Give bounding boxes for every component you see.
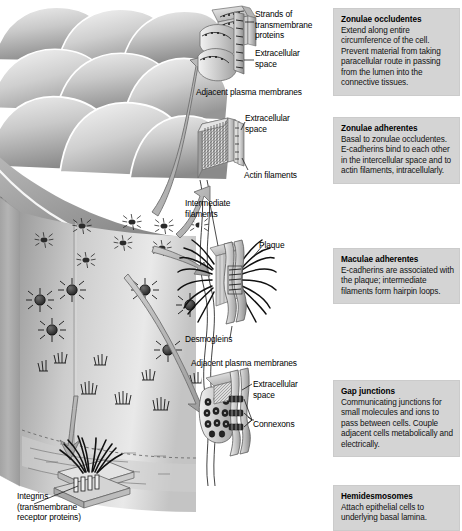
label-extracellular-space-tight-junction: Extracellular space xyxy=(255,48,300,69)
info-title-gap-junctions: Gap junctions xyxy=(341,387,454,398)
junction-info-panel: Zonulae occludentes Extend along entire … xyxy=(333,0,462,531)
info-title-zonulae-adherentes: Zonulae adherentes xyxy=(341,124,454,135)
info-body-maculae-adherentes: E-cadherins are associated with the plaq… xyxy=(341,266,454,298)
info-title-zonulae-occludentes: Zonulae occludentes xyxy=(341,15,454,26)
info-box-hemidesmosomes: Hemidesmosomes Attach epithelial cells t… xyxy=(333,485,460,531)
info-box-zonulae-occludentes: Zonulae occludentes Extend along entire … xyxy=(333,8,460,96)
label-actin-filaments: Actin filaments xyxy=(244,170,297,181)
label-adjacent-plasma-membranes-bottom: Adjacent plasma membranes xyxy=(191,358,297,369)
figure-root: Strands of transmembrane proteins Extrac… xyxy=(0,0,462,531)
label-plaque: Plaque xyxy=(259,240,284,251)
label-intermediate-filaments: Intermediate filaments xyxy=(185,198,230,219)
label-strands-of-transmembrane-proteins: Strands of transmembrane proteins xyxy=(255,9,312,41)
info-body-hemidesmosomes: Attach epithelial cells to underlying ba… xyxy=(341,503,454,524)
label-integrins: Integrins (transmembrane receptor protei… xyxy=(17,491,81,523)
label-extracellular-space-zonula-adherens: Extracellular space xyxy=(245,113,290,134)
info-body-gap-junctions: Communicating junctions for small molecu… xyxy=(341,398,454,451)
info-box-zonulae-adherentes: Zonulae adherentes Basal to zonulae occl… xyxy=(333,117,460,184)
info-box-gap-junctions: Gap junctions Communicating junctions fo… xyxy=(333,380,460,457)
label-desmogleins: Desmogleins xyxy=(185,334,232,345)
label-connexons: Connexons xyxy=(253,419,294,430)
cell-junction-illustration xyxy=(0,0,333,531)
info-title-hemidesmosomes: Hemidesmosomes xyxy=(341,492,454,503)
label-extracellular-space-gap-junction: Extracellular space xyxy=(253,379,298,400)
info-box-maculae-adherentes: Maculae adherentes E-cadherins are assoc… xyxy=(333,248,460,304)
label-adjacent-plasma-membranes-top: Adjacent plasma membranes xyxy=(196,87,302,98)
info-body-zonulae-adherentes: Basal to zonulae occludentes. E-cadherin… xyxy=(341,135,454,177)
info-title-maculae-adherentes: Maculae adherentes xyxy=(341,255,454,266)
apical-cell-surface xyxy=(0,7,229,180)
info-body-zonulae-occludentes: Extend along entire circumference of the… xyxy=(341,26,454,89)
